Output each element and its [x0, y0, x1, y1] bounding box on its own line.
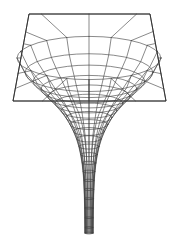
gravity-well-figure: Gravity Well Embedding Diagram [0, 0, 178, 236]
wireframe-canvas [0, 0, 178, 236]
